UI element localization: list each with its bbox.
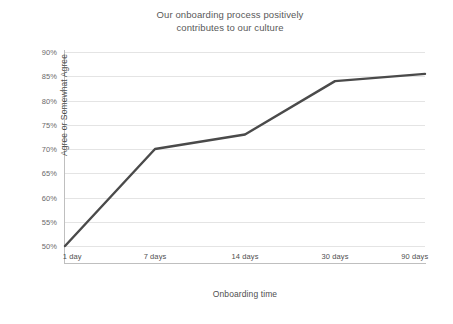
series-line-0 xyxy=(65,74,425,246)
chart-title: Our onboarding process positivelycontrib… xyxy=(60,8,400,34)
x-tick-label: 1 day xyxy=(63,252,82,261)
chart-title-line-2: contributes to our culture xyxy=(176,22,283,33)
x-tick-label: 7 days xyxy=(144,252,167,261)
series-line-agree xyxy=(65,52,425,246)
x-tick-label: 14 days xyxy=(232,252,259,261)
x-axis-spine xyxy=(64,263,426,264)
plot-area: 50%55%60%65%70%75%80%85%90% 1 day7 days1… xyxy=(65,52,425,246)
x-tick-label: 30 days xyxy=(322,252,349,261)
y-tick-label: 80% xyxy=(17,96,57,105)
y-tick-label: 85% xyxy=(17,72,57,81)
gridline xyxy=(65,246,425,247)
y-axis-title: Agree or Somewhat Agree xyxy=(59,35,69,175)
y-tick-label: 50% xyxy=(17,242,57,251)
y-tick-label: 55% xyxy=(17,217,57,226)
y-tick-label: 90% xyxy=(17,48,57,57)
y-tick-label: 70% xyxy=(17,145,57,154)
x-tick-label: 90 days xyxy=(401,252,428,261)
y-tick-label: 60% xyxy=(17,193,57,202)
y-tick-label: 65% xyxy=(17,169,57,178)
y-tick-label: 75% xyxy=(17,120,57,129)
line-chart: Our onboarding process positivelycontrib… xyxy=(0,0,453,324)
chart-title-line-1: Our onboarding process positively xyxy=(157,9,304,20)
x-axis-title: Onboarding time xyxy=(65,289,425,299)
